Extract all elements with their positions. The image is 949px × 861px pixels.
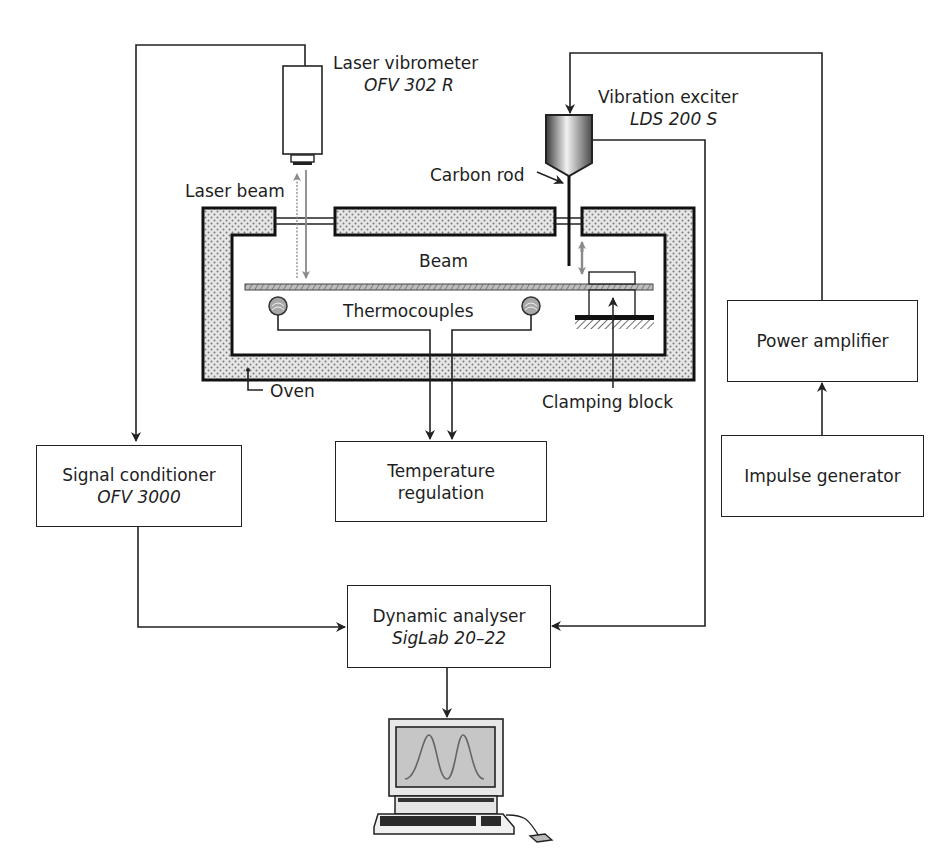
dynamic-analyser-box: Dynamic analyser SigLab 20–22	[347, 585, 551, 668]
clamping-block-label: Clamping block	[542, 391, 673, 413]
impulse-generator-label: Impulse generator	[744, 465, 901, 487]
temperature-regulation-line1: Temperature	[387, 460, 495, 482]
signal-conditioner-model: OFV 3000	[97, 486, 180, 508]
beam-specimen	[245, 284, 653, 290]
clamping-block-icon	[575, 272, 654, 329]
power-amplifier-box: Power amplifier	[727, 300, 918, 382]
vibration-exciter-label: Vibration exciter	[598, 86, 738, 108]
dynamic-analyser-model: SigLab 20–22	[392, 627, 506, 649]
setup-diagram-canvas	[0, 0, 949, 861]
oven-label: Oven	[270, 380, 315, 402]
laser-beam-label: Laser beam	[185, 180, 285, 202]
signal-conditioner-label: Signal conditioner	[62, 464, 216, 486]
thermocouple-left-icon	[269, 297, 287, 315]
vibration-exciter-model: LDS 200 S	[630, 108, 717, 130]
computer-icon	[374, 719, 552, 842]
temperature-regulation-box: Temperature regulation	[335, 441, 547, 522]
impulse-generator-box: Impulse generator	[721, 435, 924, 517]
signal-conditioner-box: Signal conditioner OFV 3000	[36, 445, 242, 527]
wire-signal-conditioner-to-analyser	[138, 526, 345, 627]
vibration-exciter-icon	[546, 115, 592, 266]
temperature-regulation-line2: regulation	[398, 482, 484, 504]
dynamic-analyser-label: Dynamic analyser	[372, 605, 525, 627]
thermocouples-label: Thermocouples	[343, 300, 474, 322]
laser-vibrometer-label: Laser vibrometer	[333, 52, 478, 74]
carbon-rod-pointer	[537, 172, 563, 183]
laser-vibrometer-model: OFV 302 R	[364, 74, 454, 96]
carbon-rod-label: Carbon rod	[430, 164, 524, 186]
beam-label: Beam	[419, 250, 468, 272]
power-amplifier-label: Power amplifier	[756, 330, 888, 352]
thermocouple-right-icon	[522, 297, 540, 315]
laser-vibrometer-icon	[283, 66, 322, 165]
